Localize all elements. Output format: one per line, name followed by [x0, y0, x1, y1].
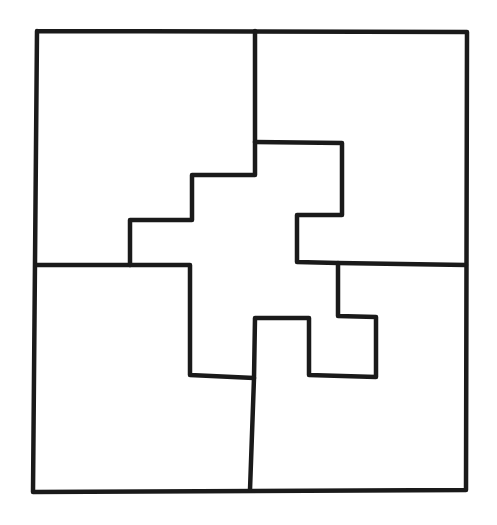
outer-square-border: [33, 31, 467, 492]
puzzle-diagram: [0, 0, 497, 525]
top-right-stepped-edge: [255, 142, 466, 265]
bottom-left-stepped-edge: [130, 265, 254, 378]
bottom-right-stepped-edge: [254, 263, 376, 378]
bottom-vertical-divider: [250, 378, 254, 490]
top-left-stepped-edge: [130, 142, 255, 265]
